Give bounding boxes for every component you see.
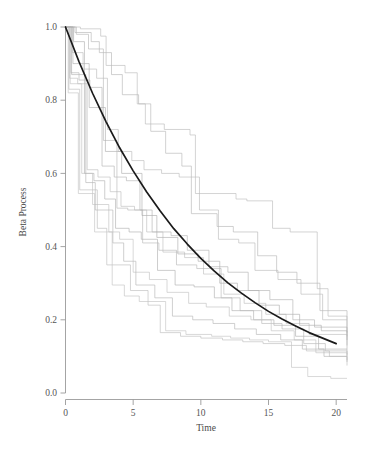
y-axis-ticks: 0.00.20.40.60.81.0: [45, 22, 65, 398]
figure-container: 0.00.20.40.60.81.0 05101520 Time Beta Pr…: [0, 0, 368, 449]
sample-path-line: [66, 27, 348, 366]
mean-decay-curve: [66, 27, 337, 344]
sample-path-line: [66, 27, 348, 320]
y-tick-label: 0.6: [45, 169, 57, 179]
sample-path-line: [66, 27, 348, 340]
y-tick-label: 0.4: [45, 242, 57, 252]
x-tick-label: 10: [196, 408, 206, 418]
x-tick-label: 20: [331, 408, 341, 418]
y-tick-label: 1.0: [45, 22, 57, 32]
beta-process-plot: 0.00.20.40.60.81.0 05101520 Time Beta Pr…: [0, 0, 368, 449]
y-tick-label: 0.0: [45, 388, 57, 398]
sample-paths-group: [66, 27, 348, 378]
sample-path-line: [66, 27, 348, 362]
x-axis-title: Time: [196, 423, 216, 433]
mean-curve-group: [66, 27, 337, 344]
x-tick-label: 0: [63, 408, 68, 418]
sample-path-line: [66, 27, 348, 349]
y-tick-label: 0.8: [45, 95, 57, 105]
y-tick-label: 0.2: [45, 315, 57, 325]
y-axis-title: Beta Process: [18, 187, 28, 236]
x-tick-label: 15: [264, 408, 274, 418]
x-tick-label: 5: [131, 408, 136, 418]
sample-path-line: [66, 27, 348, 336]
sample-path-line: [66, 27, 348, 345]
x-axis-ticks: 05101520: [63, 400, 341, 419]
